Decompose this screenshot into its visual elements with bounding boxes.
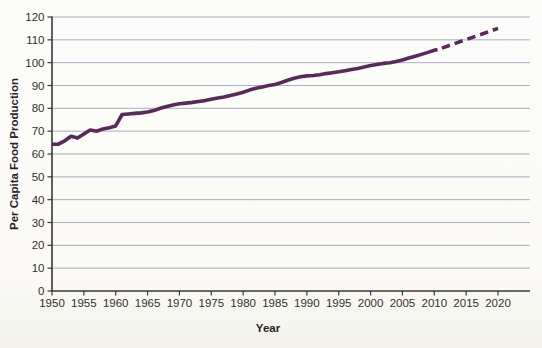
x-tick-label: 2015 bbox=[453, 297, 479, 309]
y-tick-label: 100 bbox=[25, 57, 44, 69]
food-production-chart-figure: 0102030405060708090100110120195019551960… bbox=[0, 0, 542, 348]
y-tick-label: 120 bbox=[25, 11, 44, 23]
y-tick-label: 20 bbox=[32, 239, 45, 251]
historical-line bbox=[52, 49, 438, 144]
x-axis-title: Year bbox=[256, 322, 280, 334]
x-tick-label: 1975 bbox=[198, 297, 224, 309]
x-tick-label: 1950 bbox=[39, 297, 65, 309]
x-tick-label: 2005 bbox=[390, 297, 416, 309]
y-tick-label: 30 bbox=[32, 217, 45, 229]
y-tick-label: 40 bbox=[32, 194, 45, 206]
x-tick-label: 1965 bbox=[135, 297, 161, 309]
y-tick-label: 90 bbox=[32, 80, 45, 92]
y-tick-label: 70 bbox=[32, 125, 45, 137]
y-tick-label: 60 bbox=[32, 148, 45, 160]
y-tick-label: 50 bbox=[32, 171, 45, 183]
x-tick-label: 1970 bbox=[167, 297, 193, 309]
x-tick-label: 1985 bbox=[262, 297, 288, 309]
y-tick-label: 110 bbox=[26, 34, 44, 46]
x-tick-label: 1955 bbox=[71, 297, 97, 309]
x-tick-label: 2000 bbox=[358, 297, 384, 309]
x-tick-label: 1980 bbox=[230, 297, 256, 309]
line-chart-canvas: 0102030405060708090100110120195019551960… bbox=[0, 0, 542, 348]
y-tick-label: 80 bbox=[32, 102, 45, 114]
x-tick-label: 1990 bbox=[294, 297, 320, 309]
x-tick-label: 1995 bbox=[326, 297, 352, 309]
y-tick-label: 10 bbox=[32, 262, 45, 274]
x-tick-label: 2020 bbox=[485, 297, 511, 309]
x-tick-label: 1960 bbox=[103, 297, 129, 309]
y-tick-label: 0 bbox=[38, 285, 44, 297]
x-tick-label: 2010 bbox=[421, 297, 447, 309]
projected-line bbox=[442, 28, 498, 48]
y-axis-title: Per Capita Food Production bbox=[8, 78, 20, 230]
